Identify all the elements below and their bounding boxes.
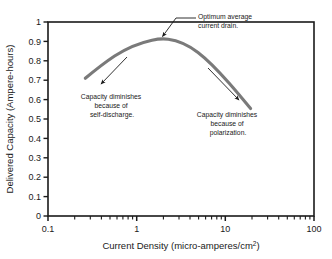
y-tick-label: 0.8 xyxy=(28,56,41,66)
x-axis-title: Current Density (micro-amperes/cm2) xyxy=(102,240,259,251)
y-tick-label: 0.4 xyxy=(28,134,41,144)
chart-svg: 0 0.1 0.2 0.3 0.4 0.5 0.6 0.7 0.8 0.9 1 … xyxy=(0,0,332,259)
annotation-line: Optimum average xyxy=(198,13,252,21)
annotation-line: Capacity diminishes xyxy=(197,111,258,119)
y-tick-label: 0.9 xyxy=(28,37,41,47)
x-tick-label: 0.1 xyxy=(42,224,55,234)
annotation-line: polarization. xyxy=(210,129,247,137)
annotation-line: current drain. xyxy=(198,22,238,29)
y-tick-label: 0.3 xyxy=(28,153,41,163)
y-tick-label: 0.5 xyxy=(28,114,41,124)
x-tick-label: 1 xyxy=(134,224,139,234)
annotation-line: self-discharge. xyxy=(90,111,134,119)
x-axis-title-main: Current Density (micro-amperes/cm xyxy=(102,240,253,251)
annotation-line: because of xyxy=(94,102,127,109)
x-tick-label: 10 xyxy=(220,224,230,234)
x-tick-label: 100 xyxy=(306,224,321,234)
y-tick-label: 0.2 xyxy=(28,172,41,182)
annotation-line: because of xyxy=(210,120,243,127)
y-tick-label: 0 xyxy=(36,211,41,221)
y-tick-label: 0.1 xyxy=(28,192,41,202)
y-axis-title: Delivered Capacity (Ampere-hours) xyxy=(4,45,15,194)
y-tick-label: 0.6 xyxy=(28,95,41,105)
x-axis-title-tail: ) xyxy=(256,240,259,251)
y-tick-label: 1 xyxy=(36,17,41,27)
annotation-line: Capacity diminishes xyxy=(81,93,142,101)
chart-figure: 0 0.1 0.2 0.3 0.4 0.5 0.6 0.7 0.8 0.9 1 … xyxy=(0,0,332,259)
plot-frame xyxy=(48,22,314,216)
y-tick-label: 0.7 xyxy=(28,75,41,85)
